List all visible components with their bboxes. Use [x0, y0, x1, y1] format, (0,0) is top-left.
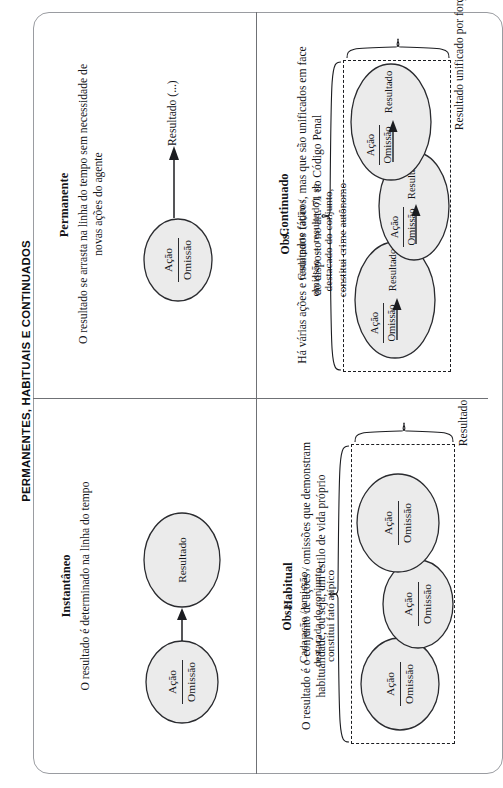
fraction-rule — [379, 125, 380, 165]
instantaneo-node-acao-omissao: Ação Omissão — [145, 640, 219, 724]
permanente-node-acao-omissao: Ação Omissão — [143, 218, 213, 302]
quadrant-continuado: Continuado Há várias ações e resultados … — [257, 12, 488, 398]
node-label-acao: Ação — [365, 134, 376, 156]
fraction-rule — [403, 207, 404, 247]
node-label-resultado: Resultado — [143, 512, 221, 608]
habitual-result-brace-icon — [353, 422, 455, 442]
continuado-node-3: Ação Omissão Resultado — [349, 62, 433, 182]
fraction-rule — [383, 303, 384, 343]
node-label-resultado: Resultado — [383, 64, 394, 120]
quadrant-instantaneo: Instantâneo O resultado é determinado na… — [33, 399, 256, 774]
quadrant-habitual: Habitual O resultado é o conjunto de açõ… — [257, 399, 488, 774]
instantaneo-node-resultado: Resultado — [143, 512, 221, 608]
permanente-outcome: Resultado (...) — [166, 26, 181, 146]
habitual-node-3: Ação Omissão — [355, 472, 441, 574]
continuado-brace-label: Resultado unificado por força de lei — [453, 0, 467, 192]
habitual-obs-body: Cada ação / omissão, destacada do conjun… — [297, 558, 338, 674]
permanente-title: Permanente — [57, 32, 71, 378]
permanente-description: O resultado se arrasta na linha do tempo… — [77, 54, 106, 354]
instantaneo-title: Instantâneo — [59, 418, 73, 754]
continuado-obs-body: Cada parte (ação / omissão → resultado),… — [295, 182, 349, 298]
continuado-result-brace-icon — [345, 38, 451, 58]
permanente-arrow-icon — [164, 144, 184, 218]
node-label-omissao: Omissão — [382, 126, 393, 163]
instantaneo-arrow-icon — [172, 607, 192, 641]
habitual-obs-title: Obs.: — [281, 572, 295, 662]
habitual-node-1: Ação Omissão — [359, 636, 441, 732]
habitual-brace-label: Resultado — [457, 278, 471, 568]
continuado-obs-title: Obs.: — [279, 196, 293, 286]
node-label-acao: Ação — [369, 312, 380, 334]
node-label-acao: Ação — [389, 216, 400, 238]
node-label-omissao: Omissão — [406, 208, 417, 245]
instantaneo-description: O resultado é determinado na linha do te… — [79, 438, 94, 734]
node-label-omissao: Omissão — [386, 304, 397, 341]
quadrant-permanente: Permanente O resultado se arrasta na lin… — [33, 12, 256, 398]
